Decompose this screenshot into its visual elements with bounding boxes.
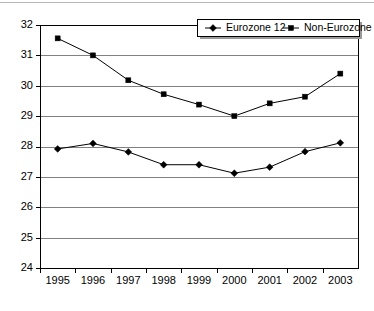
y-tick-label: 28 [21,139,33,151]
data-point-1-7 [302,148,309,155]
x-tick-label: 1997 [116,274,140,286]
data-point-2-7 [303,94,308,99]
y-tick-label: 32 [21,18,33,30]
data-point-1-4 [196,161,203,168]
data-point-2-4 [197,102,202,107]
x-tick-label: 2000 [222,274,246,286]
y-tick-label: 26 [21,200,33,212]
y-tick-label: 24 [21,261,33,273]
data-point-2-8 [338,71,343,76]
series-2 [55,36,343,119]
y-axis-ticks: 242526272829303132 [21,18,41,273]
y-tick-label: 31 [21,48,33,60]
data-point-1-3 [160,161,167,168]
x-tick-label: 2001 [257,274,281,286]
x-tick-label: 1995 [45,274,69,286]
line-chart: 2425262728293031321995199619971998199920… [0,0,374,311]
data-point-legend-2 [289,26,294,31]
data-point-2-3 [161,92,166,97]
y-tick-label: 29 [21,109,33,121]
data-point-2-0 [55,36,60,41]
legend-label-1: Eurozone 12 [226,21,286,33]
data-point-1-2 [125,149,132,156]
x-tick-label: 1998 [151,274,175,286]
data-point-1-0 [54,146,61,153]
y-tick-label: 27 [21,170,33,182]
x-tick-label: 1999 [187,274,211,286]
x-axis-ticks: 199519961997199819992000200120022003 [41,269,353,287]
x-tick-label: 2003 [328,274,352,286]
data-point-1-8 [337,139,344,146]
data-point-1-1 [90,140,97,147]
x-tick-label: 2002 [293,274,317,286]
gridlines [40,26,358,239]
data-point-2-6 [267,101,272,106]
data-point-2-5 [232,114,237,119]
x-tick-label: 1996 [81,274,105,286]
data-point-1-5 [231,170,238,177]
data-point-2-1 [91,53,96,58]
legend: Eurozone 12Non-Eurozone [198,20,372,40]
y-tick-label: 30 [21,79,33,91]
data-point-2-2 [126,78,131,83]
y-tick-label: 25 [21,231,33,243]
series-1 [54,139,343,176]
data-point-1-6 [266,164,273,171]
legend-label-2: Non-Eurozone [304,21,372,33]
